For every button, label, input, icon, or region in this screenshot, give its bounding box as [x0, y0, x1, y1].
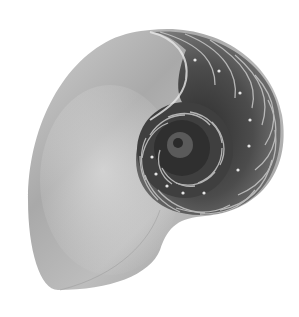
- nautilus-shell-photo: [0, 0, 299, 317]
